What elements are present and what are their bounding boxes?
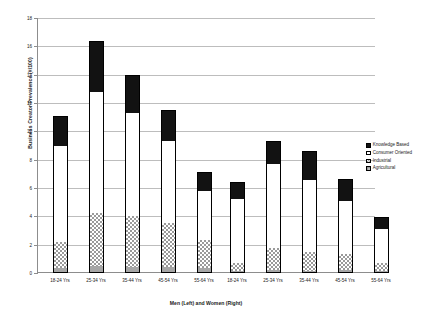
bar-women-35-44-yrs [302,151,317,273]
y-axis-tick-label: 6 [29,186,32,191]
x-axis-tick-label: 45-54 Yrs [335,278,354,283]
bar-segment-consumer-oriented [53,146,68,242]
legend-swatch-icon [366,143,371,148]
bar-segment-knowledge-based [230,182,245,199]
chart-legend: Knowledge BasedConsumer OrientedIndustri… [366,143,438,174]
x-axis-tick-label: 35-44 Yrs [122,278,141,283]
bar-segment-knowledge-based [125,75,140,113]
bar-segment-agricultural [161,267,176,273]
legend-item: Industrial [366,159,438,164]
bar-women-18-24-yrs [230,182,245,273]
bar-segment-consumer-oriented [161,141,176,223]
bar-segment-industrial [161,223,176,268]
x-axis-tick-label: 25-34 Yrs [86,278,105,283]
legend-item-label: Consumer Oriented [373,151,412,156]
bar-segment-consumer-oriented [374,229,389,263]
bar-men-55-64-yrs [197,172,212,273]
bar-men-35-44-yrs [125,75,140,273]
x-axis-tick-label: 55-64 Yrs [194,278,213,283]
bar-segment-knowledge-based [89,41,104,92]
y-axis-tick-label: 4 [29,214,32,219]
y-axis-tick [34,131,38,132]
x-axis-tick-label: 55-64 Yrs [371,278,390,283]
y-axis-tick-label: 18 [27,16,32,21]
y-axis-tick-label: 12 [27,101,32,106]
bar-segment-knowledge-based [53,116,68,146]
bar-women-55-64-yrs [374,217,389,273]
x-axis-tick-label: 25-34 Yrs [263,278,282,283]
bar-segment-industrial [266,248,281,270]
bar-segment-agricultural [338,270,353,273]
bar-segment-agricultural [53,268,68,273]
bar-segment-consumer-oriented [266,164,281,248]
y-axis-tick-label: 14 [27,72,32,77]
bar-men-25-34-yrs [89,41,104,273]
bar-women-25-34-yrs [266,141,281,273]
y-axis-tick-label: 16 [27,44,32,49]
y-axis-tick [34,103,38,104]
bar-segment-knowledge-based [338,179,353,201]
bar-segment-consumer-oriented [302,180,317,252]
x-axis-tick-label: 35-44 Yrs [299,278,318,283]
bar-segment-agricultural [197,268,212,273]
chart-root: Business Creator Prevalence (#/100) 0246… [0,0,439,327]
bar-segment-industrial [374,263,389,271]
y-axis-tick [34,188,38,189]
legend-item-label: Industrial [373,159,391,164]
y-axis-tick [34,273,38,274]
bar-segment-knowledge-based [161,110,176,140]
bar-segment-industrial [302,252,317,271]
bar-segment-industrial [197,240,212,268]
x-axis-tick-label: 18-24 Yrs [50,278,69,283]
x-axis-tick-label: 45-54 Yrs [158,278,177,283]
bar-segment-agricultural [89,266,104,273]
bar-segment-knowledge-based [197,172,212,190]
y-axis-tick [34,46,38,47]
bar-segment-agricultural [125,267,140,273]
x-axis-title: Men (Left) and Women (Right) [37,300,375,306]
y-axis-tick [34,75,38,76]
bar-segment-agricultural [266,270,281,273]
x-axis-tick-label: 18-24 Yrs [227,278,246,283]
bar-segment-knowledge-based [374,217,389,229]
y-axis-tick-label: 2 [29,242,32,247]
bar-segment-agricultural [374,271,389,273]
legend-item-label: Agricultural [373,166,396,171]
bar-men-45-54-yrs [161,110,176,273]
bar-segment-consumer-oriented [230,199,245,263]
legend-item-label: Knowledge Based [373,143,409,148]
bar-segment-consumer-oriented [197,191,212,241]
bar-segment-industrial [53,242,68,268]
bar-segment-industrial [230,263,245,271]
legend-item: Knowledge Based [366,143,438,148]
plot-area: 024681012141618 18-24 Yrs25-34 Yrs35-44 … [37,18,375,273]
legend-item: Consumer Oriented [366,151,438,156]
bar-men-18-24-yrs [53,116,68,273]
gridline [37,18,375,19]
y-axis-tick-label: 10 [27,129,32,134]
legend-swatch-icon [366,151,371,156]
legend-item: Agricultural [366,166,438,171]
y-axis-tick [34,245,38,246]
bar-segment-knowledge-based [266,141,281,164]
legend-swatch-icon [366,159,371,164]
bar-segment-industrial [338,254,353,270]
y-axis-tick [34,18,38,19]
bar-segment-industrial [125,216,140,267]
bar-segment-consumer-oriented [338,201,353,254]
bar-segment-consumer-oriented [125,113,140,216]
bar-segment-industrial [89,213,104,266]
y-axis-tick [34,216,38,217]
y-axis-tick-label: 8 [29,157,32,162]
bar-women-45-54-yrs [338,179,353,273]
y-axis-tick [34,160,38,161]
bar-segment-consumer-oriented [89,92,104,213]
bar-segment-knowledge-based [302,151,317,179]
bar-segment-agricultural [230,271,245,273]
y-axis-tick-label: 0 [29,271,32,276]
legend-swatch-icon [366,166,371,171]
bar-segment-agricultural [302,271,317,273]
